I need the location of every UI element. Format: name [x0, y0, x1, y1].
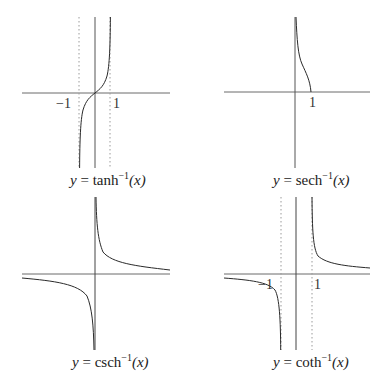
caption-argument: (x) [132, 354, 149, 370]
plot-arcsch [22, 197, 170, 350]
caption-arcoth: y = coth−1(x) [273, 352, 349, 371]
caption-function: sech [296, 172, 323, 188]
curve-arcoth-positive [312, 197, 370, 268]
caption-equals: = [280, 354, 296, 370]
caption-exponent: −1 [121, 352, 132, 363]
caption-equals: = [77, 172, 93, 188]
tick-label-pos1: 1 [314, 277, 321, 293]
caption-argument: (x) [129, 172, 146, 188]
caption-argument: (x) [332, 354, 349, 370]
caption-lhs: y [273, 172, 280, 188]
tick-label-neg1: −1 [56, 96, 71, 112]
caption-arsech: y = sech−1(x) [273, 170, 350, 189]
caption-function: coth [296, 354, 322, 370]
plot-arsech [224, 17, 370, 168]
caption-lhs: y [72, 354, 79, 370]
caption-lhs: y [70, 172, 77, 188]
caption-function: tanh [93, 172, 119, 188]
curve-arsech [296, 17, 311, 92]
caption-exponent: −1 [321, 352, 332, 363]
plot-arcoth [224, 197, 370, 350]
tick-label-neg1: −1 [258, 277, 273, 293]
caption-function: csch [95, 354, 122, 370]
plots-canvas [0, 0, 389, 386]
caption-equals: = [280, 172, 296, 188]
caption-argument: (x) [333, 172, 350, 188]
tick-label-pos1: 1 [113, 96, 120, 112]
caption-exponent: −1 [118, 170, 129, 181]
curve-arcsch-positive [96, 197, 170, 270]
caption-equals: = [79, 354, 95, 370]
curve-arcsch-negative [22, 278, 94, 350]
caption-exponent: −1 [322, 170, 333, 181]
tick-label-pos1: 1 [309, 95, 316, 111]
plot-artanh [22, 17, 170, 168]
caption-artanh: y = tanh−1(x) [70, 170, 146, 189]
caption-lhs: y [273, 354, 280, 370]
caption-arcsch: y = csch−1(x) [72, 352, 149, 371]
